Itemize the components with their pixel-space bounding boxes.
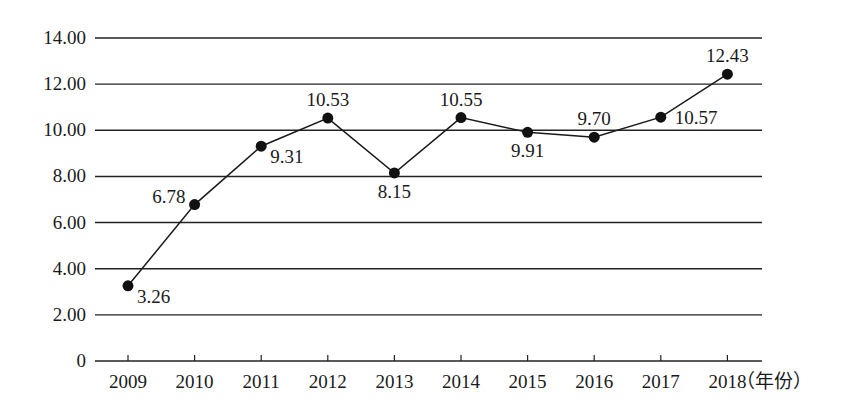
gridlines xyxy=(95,38,762,315)
data-point-marker xyxy=(522,127,533,138)
y-tick-label: 14.00 xyxy=(43,27,86,48)
x-tick-label: 2016 xyxy=(575,371,613,392)
data-label: 10.55 xyxy=(440,89,483,110)
y-tick-label: 6.00 xyxy=(53,212,86,233)
series-line xyxy=(128,74,727,286)
y-tick-label: 2.00 xyxy=(53,304,86,325)
data-label: 10.53 xyxy=(306,89,349,110)
y-tick-label: 8.00 xyxy=(53,165,86,186)
y-tick-label: 10.00 xyxy=(43,119,86,140)
data-label: 10.57 xyxy=(675,107,718,128)
data-point-marker xyxy=(256,141,267,152)
data-label: 9.31 xyxy=(270,146,303,167)
y-tick-label: 0 xyxy=(77,350,87,371)
line-chart: 02.004.006.008.0010.0012.0014.00 2009201… xyxy=(0,0,856,420)
data-label: 8.15 xyxy=(378,181,411,202)
x-tick-label: 2010 xyxy=(176,371,214,392)
x-tick-label: 2015 xyxy=(509,371,547,392)
data-series xyxy=(123,69,733,292)
x-axis-label: （年份） xyxy=(736,371,812,392)
data-label: 12.43 xyxy=(706,45,749,66)
x-tick-label: 2014 xyxy=(442,371,481,392)
data-label: 3.26 xyxy=(137,286,170,307)
y-axis-tick-labels: 02.004.006.008.0010.0012.0014.00 xyxy=(43,27,86,371)
data-point-marker xyxy=(389,167,400,178)
data-label: 9.91 xyxy=(511,140,544,161)
data-point-marker xyxy=(322,113,333,124)
data-point-marker xyxy=(456,112,467,123)
x-axis xyxy=(95,355,762,361)
x-tick-label: 2012 xyxy=(309,371,347,392)
data-point-marker xyxy=(189,199,200,210)
x-tick-label: 2013 xyxy=(375,371,413,392)
y-tick-label: 12.00 xyxy=(43,73,86,94)
data-label: 6.78 xyxy=(152,186,185,207)
y-tick-label: 4.00 xyxy=(53,258,86,279)
x-axis-tick-labels: 2009201020112012201320142015201620172018 xyxy=(109,371,746,392)
x-tick-label: 2011 xyxy=(243,371,280,392)
x-tick-label: 2017 xyxy=(642,371,680,392)
data-label: 9.70 xyxy=(578,108,611,129)
data-point-marker xyxy=(123,280,134,291)
data-point-marker xyxy=(655,112,666,123)
x-tick-label: 2009 xyxy=(109,371,147,392)
data-point-marker xyxy=(589,132,600,143)
data-point-marker xyxy=(722,69,733,80)
